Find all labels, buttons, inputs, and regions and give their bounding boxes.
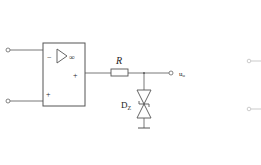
right-terminal-bottom xyxy=(247,107,261,111)
zener-label: DZ xyxy=(121,100,132,111)
resistor: R xyxy=(111,55,128,76)
zener-diode: DZ xyxy=(121,73,151,128)
circuit-diagram: ∞ − + + R uo DZ xyxy=(0,0,261,165)
right-terminal-top xyxy=(247,59,261,63)
input-terminal-noninverting xyxy=(6,99,43,103)
output-sign: + xyxy=(73,71,78,80)
input-terminal-inverting xyxy=(6,48,43,52)
noninverting-sign: + xyxy=(46,90,51,99)
opamp: ∞ − + + xyxy=(43,43,85,106)
output-terminal xyxy=(169,71,173,75)
resistor-label: R xyxy=(115,55,122,66)
output-label: uo xyxy=(179,70,186,78)
inverting-sign: − xyxy=(47,53,52,62)
opamp-gain-symbol: ∞ xyxy=(69,53,75,62)
